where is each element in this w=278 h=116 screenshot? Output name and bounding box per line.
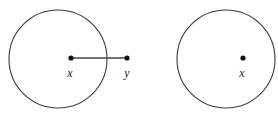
point-x-left-dot	[68, 55, 73, 60]
right-circle	[177, 10, 275, 108]
point-y-label: y	[123, 66, 130, 80]
point-x-left-label: x	[66, 66, 73, 80]
left-circle	[9, 10, 107, 108]
point-x-right-dot	[240, 55, 245, 60]
figure-container: x y x	[0, 0, 278, 116]
point-y-dot	[124, 55, 129, 60]
geometric-diagram-canvas: x y x	[0, 0, 278, 116]
point-x-right-label: x	[238, 66, 245, 80]
